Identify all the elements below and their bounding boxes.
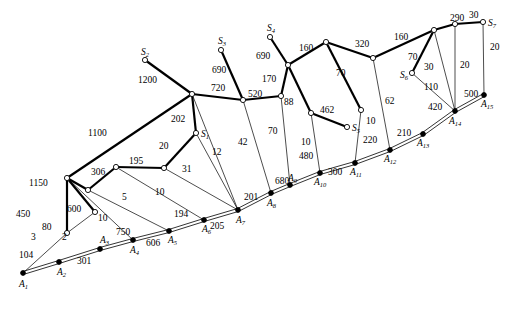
node-label-S7: S7 — [488, 18, 497, 29]
node-J15[interactable] — [431, 27, 436, 32]
node-J12[interactable] — [323, 39, 328, 44]
node-label-A3: A3 — [99, 235, 110, 246]
node-A11[interactable] — [353, 161, 358, 166]
edge-weight-label: 290 — [450, 13, 465, 23]
edge-J10-S4 — [270, 37, 288, 65]
edge-weight-label: 606 — [146, 238, 161, 248]
edge-weight-label: 88 — [284, 97, 294, 107]
node-A8[interactable] — [269, 191, 274, 196]
edge-weight-label: 104 — [19, 250, 34, 260]
node-label-A11: A11 — [349, 167, 362, 178]
node-A14[interactable] — [453, 109, 458, 114]
edge-weight-label: 194 — [174, 209, 189, 219]
node-S5[interactable] — [344, 124, 349, 129]
edge-J15-J16 — [434, 24, 455, 30]
node-A1[interactable] — [21, 271, 26, 276]
node-J3[interactable] — [92, 209, 97, 214]
edge-weight-label: 301 — [77, 256, 92, 266]
edge-weight-label: 201 — [244, 192, 259, 202]
node-S6[interactable] — [409, 70, 414, 75]
network-diagram: 1043017506061942052016804803002202104205… — [0, 0, 511, 311]
edge-weight-label: 500 — [464, 89, 479, 99]
edge-weight-label: 450 — [16, 209, 31, 219]
edge-A1-A2 — [23, 261, 60, 275]
node-J11[interactable] — [308, 110, 313, 115]
edge-weight-label: 80 — [42, 222, 52, 232]
node-J2[interactable] — [64, 175, 69, 180]
node-J8[interactable] — [240, 97, 245, 102]
edge-J9-J10 — [281, 65, 288, 96]
node-J14[interactable] — [370, 55, 375, 60]
edge-weight-label: 170 — [262, 74, 277, 84]
node-S2[interactable] — [142, 57, 147, 62]
edge-weight-label: 110 — [424, 82, 438, 92]
edge-weight-label: 420 — [428, 102, 443, 112]
edge-weight-label: 10 — [155, 187, 165, 197]
edge-S7-A15 — [483, 22, 484, 95]
node-A4[interactable] — [131, 238, 136, 243]
node-S3[interactable] — [218, 47, 223, 52]
node-J4[interactable] — [85, 187, 90, 192]
edge-weight-label: 480 — [299, 151, 314, 161]
node-A6[interactable] — [202, 218, 207, 223]
edge-weight-label: 70 — [408, 52, 418, 62]
node-S4[interactable] — [267, 34, 272, 39]
node-J6[interactable] — [161, 165, 166, 170]
edge-weight-label: 30 — [469, 10, 479, 20]
edge-weight-label: 300 — [328, 167, 343, 177]
edge-weight-label: 12 — [212, 147, 222, 157]
edge-weight-label: 195 — [129, 156, 144, 166]
edge-weight-label: 690 — [256, 51, 271, 61]
node-A10[interactable] — [318, 171, 323, 176]
edge-weight-label: 10 — [301, 137, 311, 147]
node-S1[interactable] — [193, 130, 198, 135]
edge-weight-label: 70 — [268, 126, 278, 136]
edge-weight-label: 320 — [355, 39, 370, 49]
node-S7[interactable] — [480, 19, 485, 24]
node-J7[interactable] — [189, 91, 194, 96]
node-label-S6: S6 — [400, 70, 409, 81]
edge-weight-label: 160 — [394, 32, 409, 42]
edge-weight-label: 1150 — [29, 178, 48, 188]
edge-weight-label: 62 — [385, 96, 395, 106]
node-label-A1: A1 — [18, 279, 28, 290]
node-label-A2: A2 — [56, 267, 67, 278]
edge-weight-label: 1100 — [88, 128, 107, 138]
node-A13[interactable] — [421, 132, 426, 137]
edge-weight-label: 30 — [424, 62, 434, 72]
node-A3[interactable] — [98, 247, 103, 252]
edge-A5-A6 — [169, 219, 205, 233]
edge-weight-label: 306 — [91, 167, 106, 177]
node-label-A15: A15 — [480, 99, 494, 110]
node-label-A8: A8 — [266, 198, 277, 209]
node-J13[interactable] — [358, 107, 363, 112]
node-label-A5: A5 — [167, 235, 178, 246]
node-A5[interactable] — [167, 229, 172, 234]
edge-weight-label: 20 — [159, 141, 169, 151]
edge-weight-label: 10 — [98, 213, 108, 223]
node-label-A13: A13 — [416, 138, 430, 149]
node-label-A12: A12 — [383, 154, 397, 165]
edge-weight-label: 462 — [320, 105, 335, 115]
node-A15[interactable] — [482, 93, 487, 98]
edge-weight-label: 1200 — [138, 75, 157, 85]
node-label-S2: S2 — [141, 47, 150, 58]
edge-J13-A11 — [355, 110, 361, 163]
edge-weight-label: 202 — [171, 114, 186, 124]
node-label-A4: A4 — [129, 245, 140, 256]
node-label-A9: A9 — [287, 173, 298, 184]
edge-J15-A14 — [434, 30, 455, 111]
node-A7[interactable] — [236, 208, 241, 213]
edge-weight-label: 220 — [363, 135, 378, 145]
node-J9[interactable] — [278, 93, 283, 98]
node-A12[interactable] — [388, 148, 393, 153]
node-J10[interactable] — [285, 62, 290, 67]
network-svg: 1043017506061942052016804803002202104205… — [0, 0, 511, 311]
node-A2[interactable] — [57, 260, 62, 265]
node-J5[interactable] — [113, 164, 118, 169]
edge-weight-label: 160 — [299, 43, 314, 53]
edge-weight-label: 5 — [122, 192, 127, 202]
edge-weight-label: 31 — [182, 164, 192, 174]
edge-weight-label: 210 — [397, 128, 412, 138]
edge-weight-label: 205 — [210, 221, 225, 231]
